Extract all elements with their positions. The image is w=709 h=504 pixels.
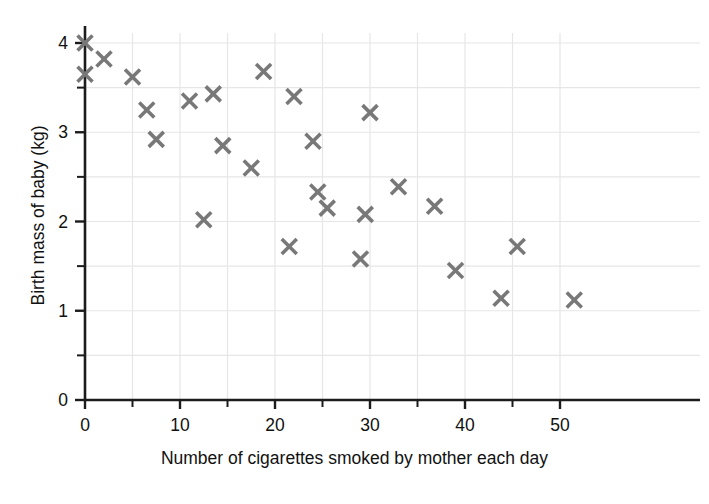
x-tick-label: 40 bbox=[455, 415, 475, 435]
y-tick-label: 2 bbox=[58, 212, 68, 232]
y-tick-label: 0 bbox=[58, 390, 68, 410]
data-point-marker bbox=[282, 239, 297, 254]
y-tick-label: 3 bbox=[58, 122, 68, 142]
y-tick-label: 1 bbox=[58, 301, 68, 321]
x-tick-label: 50 bbox=[550, 415, 570, 435]
data-point-marker bbox=[196, 212, 211, 227]
data-point-marker bbox=[97, 52, 112, 67]
data-point-marker bbox=[353, 251, 368, 266]
data-point-marker bbox=[139, 102, 154, 117]
data-point-marker bbox=[567, 293, 582, 308]
x-tick-label: 30 bbox=[360, 415, 380, 435]
x-tick-label: 20 bbox=[265, 415, 285, 435]
data-point-marker bbox=[448, 263, 463, 278]
x-axis-label: Number of cigarettes smoked by mother ea… bbox=[0, 448, 709, 469]
x-tick-label: 0 bbox=[80, 415, 90, 435]
scatter-plot-figure: 0102030405001234 Birth mass of baby (kg)… bbox=[0, 0, 709, 504]
data-point-marker bbox=[287, 89, 302, 104]
data-point-marker bbox=[306, 134, 321, 149]
data-point-marker bbox=[206, 86, 221, 101]
y-tick-label: 4 bbox=[58, 33, 68, 53]
data-point-marker bbox=[149, 132, 164, 147]
x-tick-label: 10 bbox=[170, 415, 190, 435]
grid-lines bbox=[85, 33, 700, 400]
data-point-marker bbox=[494, 291, 509, 306]
data-point-marker bbox=[256, 64, 271, 79]
axis-ticks bbox=[75, 43, 560, 409]
axis-lines bbox=[85, 26, 700, 400]
data-point-marker bbox=[244, 160, 259, 175]
data-point-marker bbox=[391, 179, 406, 194]
data-points bbox=[78, 36, 582, 308]
data-point-marker bbox=[427, 199, 442, 214]
tick-labels: 0102030405001234 bbox=[58, 33, 570, 435]
plot-canvas: 0102030405001234 bbox=[0, 0, 709, 504]
y-axis-label: Birth mass of baby (kg) bbox=[28, 86, 49, 346]
data-point-marker bbox=[182, 94, 197, 109]
